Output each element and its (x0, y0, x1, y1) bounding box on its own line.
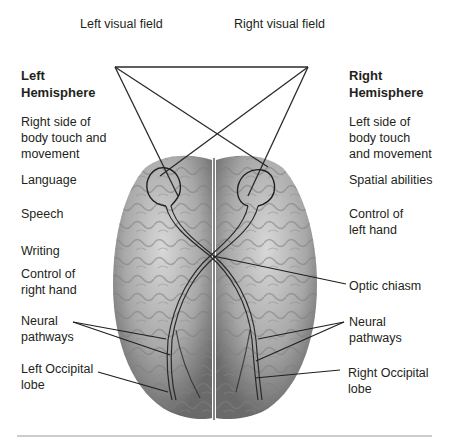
right-visual-field-label: Right visual field (234, 16, 325, 32)
right-function-left-hand: Control of left hand (349, 206, 403, 238)
left-hemisphere-heading: Left Hemisphere (21, 67, 95, 101)
left-function-body-touch: Right side of body touch and movement (21, 114, 107, 162)
optic-chiasm-label: Optic chiasm (349, 278, 421, 294)
right-function-spatial: Spatial abilities (349, 172, 432, 188)
left-occipital-lobe-label: Left Occipital lobe (21, 361, 93, 393)
left-visual-field-label: Left visual field (80, 16, 163, 32)
right-hemisphere-heading: Right Hemisphere (349, 67, 423, 101)
left-function-language: Language (21, 172, 77, 188)
right-neural-pathways-label: Neural pathways (349, 314, 402, 346)
left-function-right-hand: Control of right hand (21, 266, 77, 298)
left-neural-pathways-label: Neural pathways (21, 313, 74, 345)
left-function-writing: Writing (21, 243, 60, 259)
right-occipital-lobe-label: Right Occipital lobe (348, 365, 429, 397)
brain-illustration (113, 156, 317, 420)
right-function-body-touch: Left side of body touch and movement (349, 114, 432, 162)
left-function-speech: Speech (21, 206, 63, 222)
